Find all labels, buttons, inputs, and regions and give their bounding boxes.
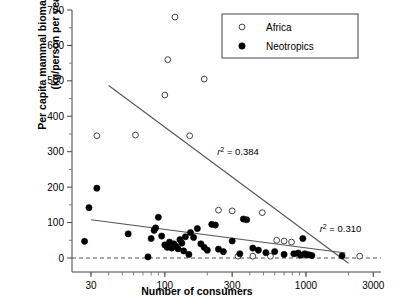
annotation-r2-neotropics: r2 = 0.310 [320, 223, 362, 235]
data-point-neotropics [255, 247, 261, 253]
y-axis-tick-label: 600 [47, 40, 64, 51]
data-point-africa [289, 239, 295, 245]
y-axis-tick-label: 0 [58, 253, 64, 264]
data-point-neotropics [125, 231, 131, 237]
data-point-africa [250, 253, 256, 259]
data-point-neotropics [212, 222, 218, 228]
y-axis-tick-label: 100 [47, 217, 64, 228]
data-point-africa [94, 133, 100, 139]
data-point-neotropics [300, 235, 306, 241]
y-axis-tick-label: 300 [47, 146, 64, 157]
data-point-africa [259, 210, 265, 216]
data-point-neotropics [186, 251, 192, 257]
figure-container: 01002003004005006007003010030010003000r2… [0, 0, 394, 306]
legend-label-neotropics: Neotropics [266, 41, 314, 52]
data-point-neotropics [81, 238, 87, 244]
data-point-africa [165, 57, 171, 63]
data-point-neotropics [204, 247, 210, 253]
y-axis-tick-label: 200 [47, 182, 64, 193]
data-point-neotropics [94, 185, 100, 191]
data-point-neotropics [237, 251, 243, 257]
data-point-africa [274, 237, 280, 243]
data-point-neotropics [244, 217, 250, 223]
scatter-plot: 01002003004005006007003010030010003000r2… [0, 0, 394, 306]
data-point-neotropics [175, 246, 181, 252]
x-axis-label: Number of consumers [0, 285, 394, 297]
data-point-neotropics [272, 249, 278, 255]
data-point-neotropics [182, 234, 188, 240]
data-point-africa [216, 207, 222, 213]
data-point-neotropics [86, 205, 92, 211]
regression-line-africa [109, 85, 349, 263]
legend-marker-neotropics [239, 43, 245, 49]
data-point-africa [162, 92, 168, 98]
data-point-neotropics [145, 254, 151, 260]
legend-label-africa: Africa [266, 22, 292, 33]
legend-marker-africa [239, 24, 245, 30]
data-point-africa [229, 208, 235, 214]
data-point-neotropics [159, 233, 165, 239]
data-point-neotropics [229, 238, 235, 244]
data-point-neotropics [220, 249, 226, 255]
data-point-africa [133, 132, 139, 138]
data-point-africa [172, 14, 178, 20]
y-axis-tick-label: 400 [47, 111, 64, 122]
data-point-neotropics [250, 245, 256, 251]
data-point-neotropics [263, 250, 269, 256]
data-point-africa [281, 238, 287, 244]
data-point-neotropics [339, 253, 345, 259]
y-axis-tick-label: 700 [47, 5, 64, 16]
data-point-neotropics [179, 240, 185, 246]
annotation-r2-africa: r2 = 0.384 [217, 146, 259, 158]
data-point-neotropics [152, 225, 158, 231]
data-point-neotropics [155, 214, 161, 220]
y-axis-tick-label: 500 [47, 75, 64, 86]
data-point-neotropics [148, 235, 154, 241]
data-point-neotropics [309, 252, 315, 258]
data-point-neotropics [191, 234, 197, 240]
data-point-africa [357, 253, 363, 259]
data-point-neotropics [281, 251, 287, 257]
data-point-neotropics [194, 225, 200, 231]
data-point-africa [201, 76, 207, 82]
data-point-africa [187, 133, 193, 139]
